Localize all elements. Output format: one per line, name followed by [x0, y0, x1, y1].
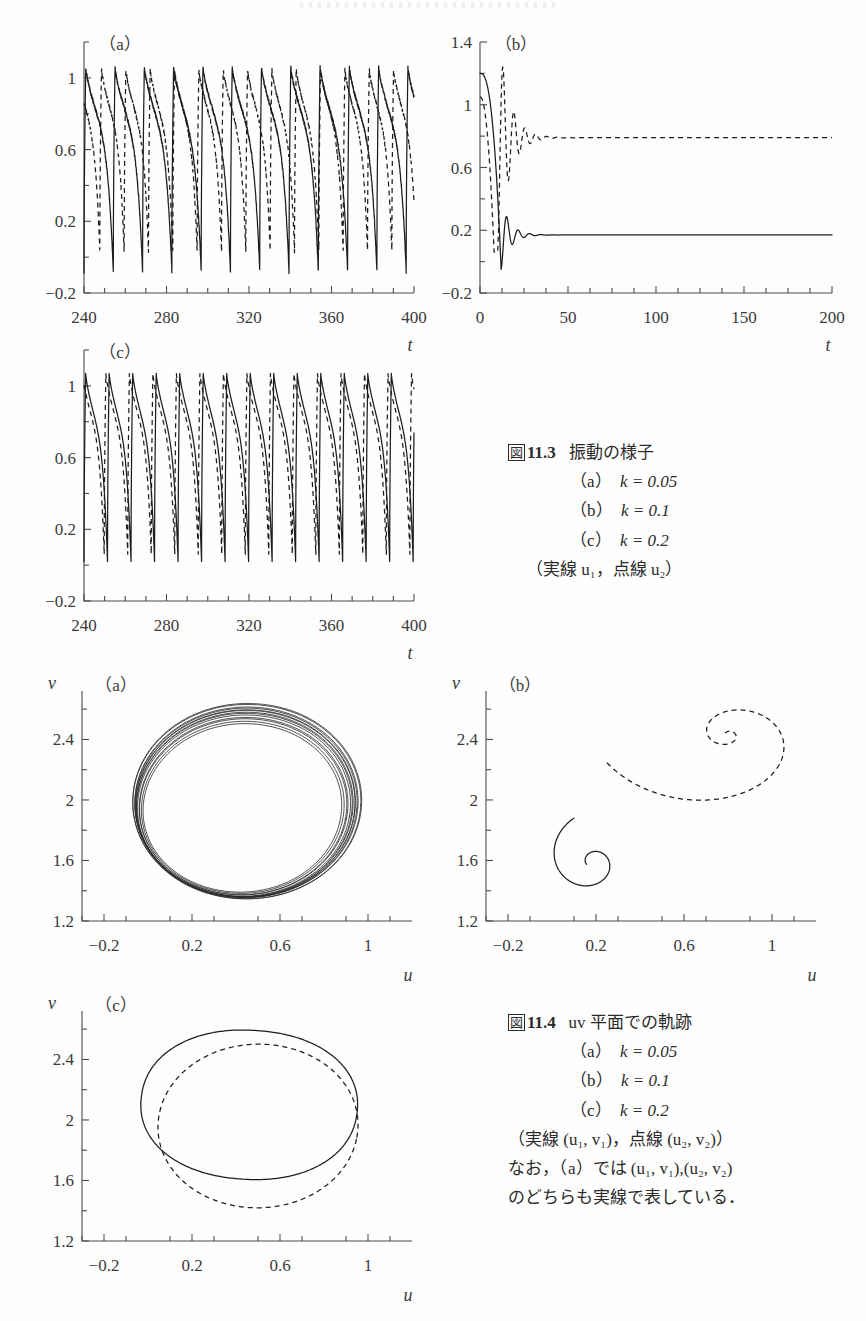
plot-fig113c: −0.20.20.61240280320360400t（c） — [12, 330, 432, 630]
panel-tag: （a） — [99, 35, 141, 54]
scan-artifact — [300, 2, 560, 8]
y-tick-label: 0.6 — [55, 449, 76, 468]
x-tick-label: 1 — [364, 1256, 373, 1275]
caption-item-c-value: k = 0.2 — [620, 531, 669, 550]
plot-canvas-fig114a: 1.21.622.4−0.20.20.61uv（a） — [12, 655, 432, 965]
y-tick-label: 2.4 — [457, 730, 479, 749]
x-tick-label: −0.2 — [89, 936, 120, 955]
fig-word-icon: 図 — [508, 444, 525, 461]
caption2-item-c-value: k = 0.2 — [620, 1101, 669, 1120]
x-tick-label: 240 — [71, 616, 97, 635]
series-curve-u2 — [84, 68, 414, 253]
plot-fig113a: −0.20.20.61240280320360400t（a） — [12, 22, 432, 322]
y-tick-label: 2 — [470, 791, 479, 810]
figure-number-11-3: 図11.3 — [508, 443, 556, 462]
panel-tag: （c） — [99, 343, 141, 362]
x-tick-label: 0.2 — [181, 1256, 202, 1275]
series-curve-u2 — [480, 67, 832, 252]
series-curve-u1 — [84, 66, 414, 274]
y-axis-label: v — [452, 673, 460, 693]
x-tick-label: 150 — [731, 308, 757, 327]
plot-canvas-fig113b: −0.20.20.611.4050100150200t（b） — [412, 22, 852, 322]
y-axis-label: v — [48, 673, 56, 693]
x-tick-label: 0.6 — [673, 936, 694, 955]
caption2-extra-note-2: のどちらも実線で表している． — [508, 1183, 745, 1212]
x-tick-label: 280 — [154, 308, 180, 327]
panel-tag: （b） — [495, 35, 538, 54]
series-curve-u1 — [480, 73, 832, 269]
x-tick-label: 0 — [476, 308, 485, 327]
caption-item-a: （a） k = 0.05 — [508, 467, 682, 496]
x-tick-label: 320 — [236, 308, 262, 327]
y-tick-label: 1 — [68, 69, 77, 88]
series-curve-(u2,v2) — [607, 710, 784, 800]
y-tick-label: 2 — [66, 791, 75, 810]
x-tick-label: 360 — [319, 616, 345, 635]
caption-fig-11-3: 図11.3 振動の様子 （a） k = 0.05 （b） k = 0.1 （c）… — [508, 438, 682, 584]
caption-fig-11-4: 図11.4 uv 平面での軌跡 （a） k = 0.05 （b） k = 0.1… — [508, 1008, 745, 1213]
y-tick-label: 0.2 — [55, 212, 76, 231]
caption2-item-c: （c） k = 0.2 — [508, 1096, 745, 1125]
figure-number-11-4: 図11.4 — [508, 1013, 556, 1032]
x-tick-label: 50 — [560, 308, 577, 327]
x-tick-label: 0.2 — [181, 936, 202, 955]
caption2-item-a-value: k = 0.05 — [620, 1042, 677, 1061]
x-axis-label: t — [825, 335, 831, 355]
x-tick-label: 100 — [643, 308, 669, 327]
panel-tag: （a） — [95, 676, 137, 695]
caption2-legend-note: （実線 (u₁, v₁)，点線 (u₂, v₂)） — [508, 1125, 745, 1154]
y-tick-label: 1.4 — [451, 33, 473, 52]
x-tick-label: 0.6 — [269, 936, 290, 955]
caption2-title-row: 図11.4 uv 平面での軌跡 — [508, 1008, 745, 1037]
fig-word-icon: 図 — [508, 1014, 525, 1031]
series-curve-u1 — [84, 373, 414, 561]
x-tick-label: 360 — [319, 308, 345, 327]
plot-fig114a: 1.21.622.4−0.20.20.61uv（a） — [12, 655, 432, 965]
y-tick-label: 2.4 — [53, 1050, 75, 1069]
y-tick-label: 0.2 — [451, 221, 472, 240]
x-tick-label: 240 — [71, 308, 97, 327]
y-tick-label: −0.2 — [441, 284, 472, 303]
caption-item-a-value: k = 0.05 — [620, 472, 677, 491]
y-tick-label: 1.6 — [53, 851, 74, 870]
y-tick-label: 1.2 — [457, 912, 478, 931]
x-tick-label: 0.6 — [269, 1256, 290, 1275]
y-tick-label: 1 — [464, 96, 473, 115]
x-tick-label: 320 — [236, 616, 262, 635]
series-curve-(u2,v2) — [158, 1044, 358, 1208]
plot-canvas-fig113c: −0.20.20.61240280320360400t（c） — [12, 330, 432, 630]
caption-item-b-value: k = 0.1 — [621, 501, 670, 520]
caption-title-row: 図11.3 振動の様子 — [508, 438, 682, 467]
y-tick-label: −0.2 — [45, 284, 76, 303]
caption2-item-b: （b） k = 0.1 — [508, 1066, 745, 1095]
y-tick-label: −0.2 — [45, 592, 76, 611]
series-curve-orbit-bundle — [133, 703, 362, 898]
plot-canvas-fig113a: −0.20.20.61240280320360400t（a） — [12, 22, 432, 322]
plot-fig114c: 1.21.622.4−0.20.20.61uv（c） — [12, 975, 432, 1285]
x-tick-label: 280 — [154, 616, 180, 635]
y-tick-label: 1.2 — [53, 1232, 74, 1251]
panel-tag: （b） — [499, 676, 542, 695]
caption-title-text: 振動の様子 — [569, 443, 654, 462]
y-tick-label: 1.2 — [53, 912, 74, 931]
series-curve-(u1,v1) — [141, 1030, 358, 1180]
x-tick-label: 1 — [768, 936, 777, 955]
y-tick-label: 0.6 — [451, 159, 472, 178]
y-tick-label: 0.6 — [55, 141, 76, 160]
series-curve-(u1,v1) — [554, 818, 610, 886]
y-tick-label: 1.6 — [53, 1171, 74, 1190]
x-tick-label: 200 — [819, 308, 845, 327]
y-tick-label: 1 — [68, 377, 77, 396]
y-tick-label: 0.2 — [55, 520, 76, 539]
caption2-extra-note-1: なお，（a）では (u₁, v₁),(u₂, v₂) — [508, 1154, 745, 1183]
panel-tag: （c） — [95, 996, 137, 1015]
caption-legend-note: （実線 u₁，点線 u₂） — [508, 555, 682, 584]
y-tick-label: 2 — [66, 1111, 75, 1130]
y-axis-label: v — [48, 993, 56, 1013]
x-tick-label: 0.2 — [585, 936, 606, 955]
caption-item-c: （c） k = 0.2 — [508, 526, 682, 555]
x-tick-label: −0.2 — [89, 1256, 120, 1275]
caption2-item-a: （a） k = 0.05 — [508, 1037, 745, 1066]
plot-canvas-fig114c: 1.21.622.4−0.20.20.61uv（c） — [12, 975, 432, 1285]
x-tick-label: 400 — [401, 616, 427, 635]
